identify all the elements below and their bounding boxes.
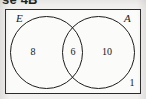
venn-diagram-figure: se 4B E A 8 6 10 1 (0, 0, 146, 99)
region-count-e-only: 8 (24, 47, 42, 57)
clipped-header-text: se 4B (2, 0, 38, 6)
set-label-e: E (16, 13, 23, 24)
set-label-a: A (124, 13, 131, 24)
region-count-outside: 1 (126, 78, 138, 88)
clipped-header-strip: se 4B (0, 0, 146, 6)
region-count-a-only: 10 (97, 47, 117, 57)
region-count-intersection: 6 (64, 47, 82, 57)
